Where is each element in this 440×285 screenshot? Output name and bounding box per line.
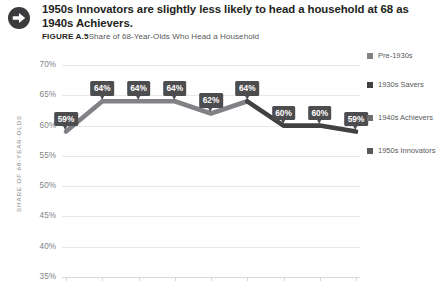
data-point-label: 64% [90, 81, 114, 96]
data-point-label: 60% [272, 106, 296, 121]
legend-swatch-icon [367, 82, 373, 88]
data-point-label: 64% [127, 81, 151, 96]
line-series-group [0, 48, 440, 285]
legend-swatch-icon [367, 115, 373, 121]
data-point-label: 64% [235, 81, 259, 96]
legend-item-label: 1940s Achievers [378, 113, 440, 122]
data-point-label: 59% [344, 112, 368, 127]
legend-swatch-icon [367, 148, 373, 154]
legend-item-label: Pre-1930s [378, 51, 440, 60]
page-title: 1950s Innovators are slightly less likel… [42, 3, 434, 30]
series-line-innovators [247, 101, 356, 131]
legend-swatch-icon [367, 53, 373, 59]
legend-item-label: 1950s Innovators [378, 146, 440, 155]
data-point-label: 60% [308, 106, 332, 121]
data-point-label: 64% [163, 81, 187, 96]
figure-caption: FIGURE A.5Share of 68-Year-Olds Who Head… [42, 32, 259, 41]
legend-item-label: 1930s Savers [378, 80, 440, 89]
data-point-label: 59% [54, 112, 78, 127]
chart-plot-area: SHARE OF 68-YEAR-OLDS 70%65%60%55%50%45%… [0, 48, 440, 285]
figure-subtitle: Share of 68-Year-Olds Who Head a Househo… [89, 32, 260, 41]
arrow-right-circle-icon [7, 6, 31, 30]
data-point-label: 62% [199, 93, 223, 108]
figure-number: FIGURE A.5 [42, 32, 89, 41]
